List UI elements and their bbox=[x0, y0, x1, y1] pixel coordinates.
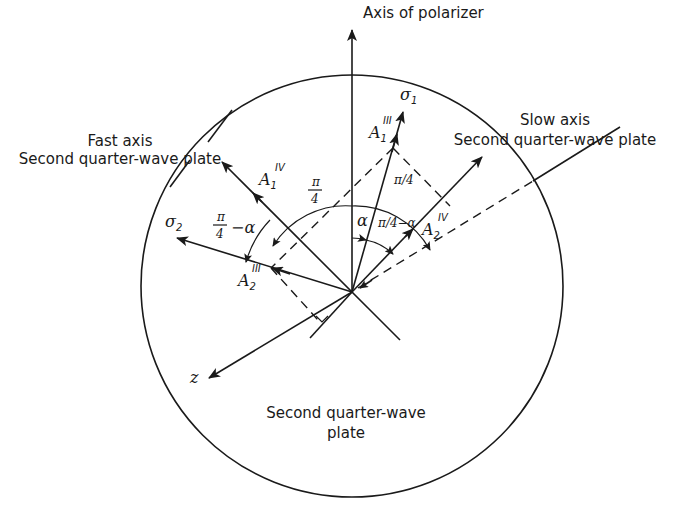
z-axis-line bbox=[209, 292, 352, 378]
arc-pi4-minus-alpha-right bbox=[366, 240, 393, 254]
angle-pi4-minus-alpha-left-num: π bbox=[216, 210, 226, 224]
slow-axis-dashed-line bbox=[358, 181, 533, 288]
sigma2-label: σ2 bbox=[165, 212, 182, 233]
fast-axis-leader-line bbox=[208, 110, 232, 142]
fast-axis-line bbox=[222, 162, 400, 340]
angle-pi4-minus-alpha-left-den: 4 bbox=[215, 227, 224, 241]
polarization-diagram: Axis of polarizer Fast axis Second quart… bbox=[0, 0, 689, 531]
a2-iv-arrow bbox=[405, 229, 413, 237]
a1-iii-label: A1III bbox=[367, 115, 392, 144]
plate-label-line1: Second quarter-wave bbox=[266, 404, 426, 422]
angle-pi4-minus-alpha-left-tail: −α bbox=[231, 218, 255, 237]
projection-a2iii-down bbox=[271, 268, 318, 320]
angle-pi4-slash: π/4 bbox=[393, 173, 414, 187]
a1-iv-arrow bbox=[253, 193, 262, 202]
z-label: z bbox=[189, 368, 199, 387]
angle-pi4-top-den: 4 bbox=[310, 192, 319, 206]
slow-axis-label: Slow axis bbox=[520, 111, 590, 129]
slow-axis-plate-label: Second quarter-wave plate bbox=[454, 131, 656, 149]
angle-pi4-minus-alpha-right: π/4−α bbox=[377, 216, 416, 230]
slow-axis-extension bbox=[310, 292, 352, 338]
fast-axis-plate-label: Second quarter-wave plate bbox=[19, 150, 221, 168]
a2-iii-label: A2III bbox=[236, 263, 261, 292]
fast-axis-label: Fast axis bbox=[88, 132, 153, 150]
arc-alpha bbox=[352, 238, 366, 240]
angle-alpha: α bbox=[357, 211, 368, 230]
a1-iv-label: A1IV bbox=[257, 162, 286, 191]
sigma1-label: σ1 bbox=[400, 85, 417, 106]
polarizer-axis-label: Axis of polarizer bbox=[363, 4, 485, 22]
angle-pi4-top-num: π bbox=[311, 175, 321, 189]
plate-label-line2: plate bbox=[327, 424, 365, 442]
